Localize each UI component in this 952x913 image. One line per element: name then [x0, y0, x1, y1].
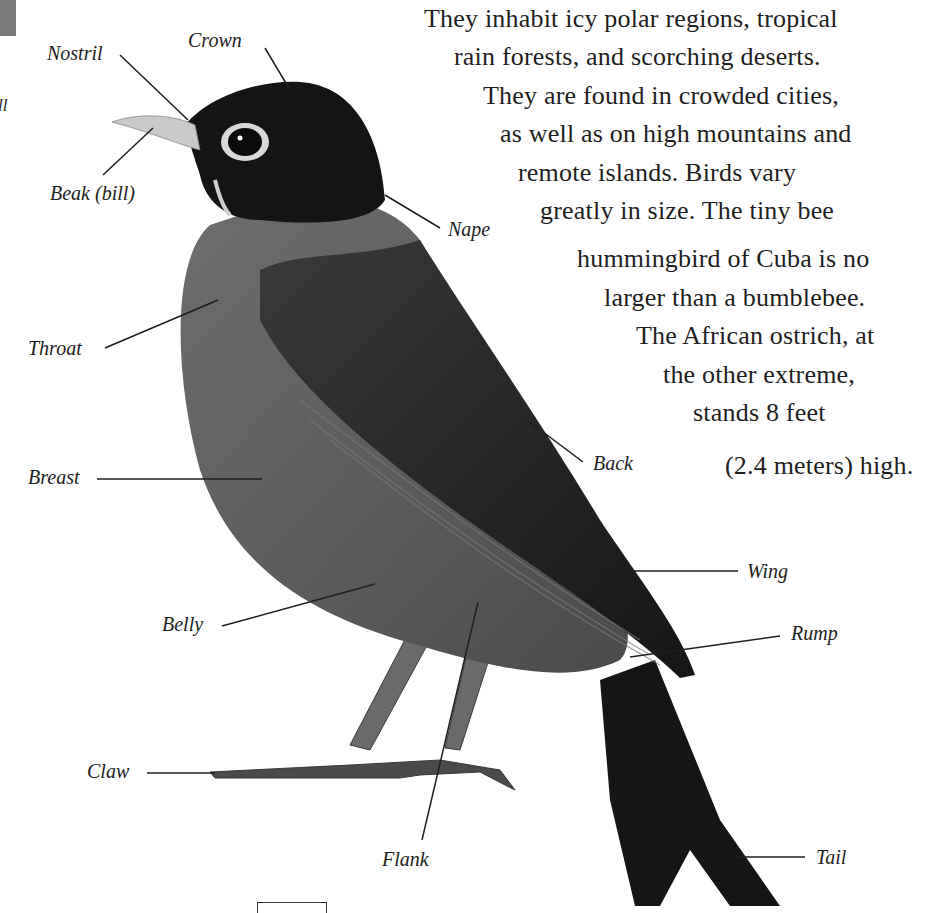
- body-line: rain forests, and scorching deserts.: [454, 44, 821, 70]
- body-line: larger than a bumblebee.: [604, 285, 865, 311]
- body-line: remote islands. Birds vary: [518, 160, 796, 186]
- label-belly: Belly: [162, 614, 203, 634]
- body-line: They are found in crowded cities,: [483, 83, 839, 109]
- body-line: as well as on high mountains and: [500, 121, 852, 147]
- tail: [600, 660, 780, 906]
- label-claw: Claw: [87, 761, 129, 781]
- page-number-box: [257, 902, 327, 913]
- label-rump: Rump: [791, 623, 838, 643]
- body-line: The African ostrich, at: [636, 323, 875, 349]
- body-line: stands 8 feet: [693, 400, 826, 426]
- label-tail: Tail: [816, 847, 846, 867]
- label-wing: Wing: [747, 561, 788, 581]
- body-line: They inhabit icy polar regions, tropical: [424, 6, 838, 32]
- body-line: hummingbird of Cuba is no: [577, 246, 869, 272]
- label-flank: Flank: [382, 849, 429, 869]
- body-line: greatly in size. The tiny bee: [540, 198, 834, 224]
- body-line: the other extreme,: [663, 362, 855, 388]
- body-line: (2.4 meters) high.: [725, 453, 913, 479]
- body-paragraph: They inhabit icy polar regions, tropical…: [0, 0, 952, 500]
